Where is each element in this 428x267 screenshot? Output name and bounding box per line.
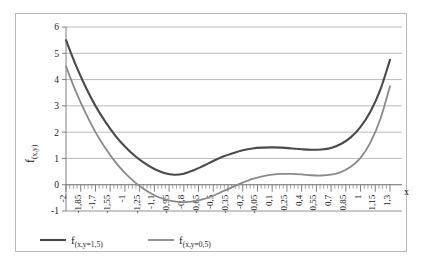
x-tick-label: 1 [353, 195, 363, 200]
x-tick-label: 1,15 [367, 194, 377, 210]
y-axis-group [62, 27, 66, 211]
x-tick-label: 0,4 [294, 194, 304, 206]
x-tick-label: 0,7 [323, 194, 333, 206]
x-tick-label: -2 [58, 195, 68, 203]
x-tick-label: 0,25 [279, 194, 289, 210]
x-tick-label: -1,25 [132, 194, 142, 213]
x-tick-label: -1,85 [73, 194, 83, 213]
y-tick-label: 3 [54, 101, 59, 111]
x-tick-label: 0,1 [264, 195, 274, 206]
y-tick-label: 4 [54, 75, 59, 85]
x-tick-labels-group: -2-1,85-1,7-1,55-1-1,25-1,1-0,95-0,8-0,6… [58, 194, 392, 213]
legend-label-2: f(x,y=0,5) [179, 234, 211, 249]
y-tick-label: 6 [54, 22, 59, 32]
x-tick-label: 0,55 [308, 194, 318, 210]
gridlines-group [66, 27, 402, 211]
x-tick-label: -1 [117, 195, 127, 203]
chart-plot-area: -10123456 -2-1,85-1,7-1,55-1-1,25-1,1-0,… [0, 0, 428, 267]
x-tick-label: -0,2 [235, 195, 245, 209]
legend-label-1: f(x,y=1,5) [71, 234, 103, 249]
y-tick-label: 5 [54, 49, 59, 59]
x-tick-label: -0,35 [220, 194, 230, 213]
series-group [66, 40, 390, 202]
y-tick-label: -1 [51, 206, 59, 216]
x-tick-label: 1,3 [382, 194, 392, 206]
y-tick-label: 1 [54, 154, 59, 164]
x-tick-label: -1,55 [102, 194, 112, 213]
legend-group: f(x,y=1,5)f(x,y=0,5) [40, 234, 211, 249]
series-line-1 [66, 40, 390, 175]
x-axis-title: x [404, 186, 409, 197]
y-tick-label: 2 [54, 128, 59, 138]
chart-container: -10123456 -2-1,85-1,7-1,55-1-1,25-1,1-0,… [0, 0, 428, 267]
y-tick-labels-group: -10123456 [51, 22, 59, 216]
x-tick-label: -0,65 [191, 194, 201, 213]
x-tick-label: 0,85 [338, 194, 348, 210]
x-tick-label: -1,7 [87, 194, 97, 209]
x-tick-label: -1,1 [146, 195, 156, 209]
y-tick-label: 0 [54, 180, 59, 190]
y-axis-title: f(x,y) [23, 144, 39, 163]
x-tick-label: -0,05 [249, 194, 259, 213]
x-tick-label: -0,95 [161, 194, 171, 213]
